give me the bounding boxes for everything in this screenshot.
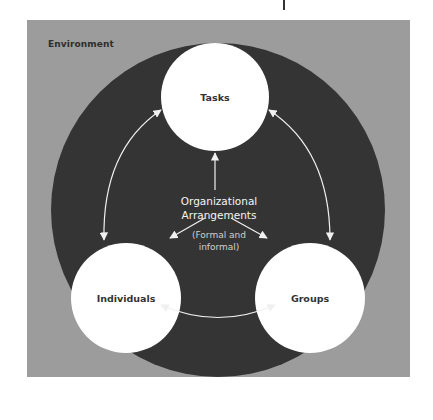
center-subtitle-line2: informal): [192, 241, 246, 253]
center-title-line1: Organizational: [181, 194, 257, 208]
organizational-arrangements-subtitle: (Formal and informal): [192, 229, 246, 253]
organizational-arrangements-title: Organizational Arrangements: [181, 194, 257, 222]
individuals-label: Individuals: [97, 293, 156, 304]
tasks-label: Tasks: [200, 92, 229, 103]
groups-label: Groups: [291, 293, 329, 304]
center-subtitle-line1: (Formal and: [192, 229, 246, 241]
center-title-line2: Arrangements: [181, 208, 257, 222]
